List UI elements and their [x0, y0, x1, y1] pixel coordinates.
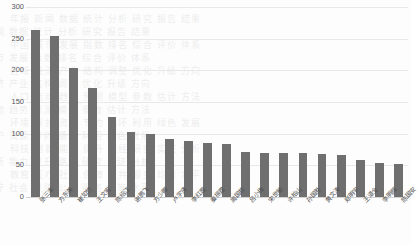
- y-axis-tick-label: 250: [2, 35, 24, 43]
- gridline: [26, 7, 408, 8]
- gridline: [26, 70, 408, 71]
- bar: [31, 30, 40, 197]
- x-axis-labels: 张三丰方东美崔如竹王文宪陈绍江谢鹏飞方少卿卢学贤李红霞秦振霆周国栋吕小梅宋世敏许…: [26, 199, 408, 245]
- gridline: [26, 165, 408, 166]
- y-axis-tick-label: 0: [2, 193, 24, 201]
- y-axis-tick-label: 50: [2, 162, 24, 170]
- gridline: [26, 39, 408, 40]
- y-axis-tick-label: 100: [2, 130, 24, 138]
- bar: [69, 68, 78, 197]
- gridline: [26, 102, 408, 103]
- plot-area: [26, 7, 408, 197]
- bar: [50, 36, 59, 198]
- y-axis-tick-label: 150: [2, 98, 24, 106]
- y-axis-tick-label: 300: [2, 3, 24, 11]
- y-axis: 050100150200250300: [0, 7, 24, 197]
- gridline: [26, 134, 408, 135]
- bar: [108, 117, 117, 197]
- y-axis-tick-label: 200: [2, 67, 24, 75]
- bar: [88, 88, 97, 197]
